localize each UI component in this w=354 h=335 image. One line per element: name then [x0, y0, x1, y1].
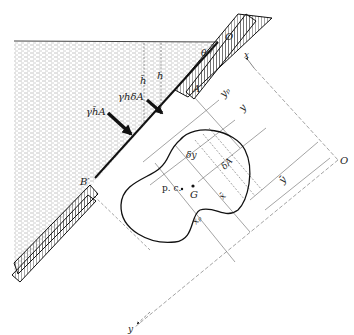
- pressure-centre-point: [181, 188, 183, 190]
- y-label: y: [236, 102, 249, 115]
- origin-right-label: O: [340, 155, 348, 166]
- centroid-point: [191, 184, 194, 187]
- inclined-plane-diagram: h̄ h γhδA γh̄A O θ A′ B′ x yₚ y ȳ O δy δ…: [0, 0, 354, 335]
- centroid-label: G: [190, 189, 198, 200]
- x-bar-label: x̄: [217, 191, 228, 202]
- point-a-label: A′: [192, 83, 203, 94]
- y-bar-label: ȳ: [276, 174, 289, 187]
- theta-label: θ: [201, 48, 207, 58]
- h-bar-label: h̄: [140, 75, 146, 86]
- h-label: h: [157, 70, 163, 81]
- pressure-centre-label: p. c.: [162, 183, 182, 193]
- diagram-canvas: h̄ h γhδA γh̄A O θ A′ B′ x yₚ y ȳ O δy δ…: [0, 0, 354, 335]
- point-b-label: B′: [79, 176, 90, 187]
- origin-top-label: O: [225, 31, 233, 42]
- free-surface: [14, 41, 218, 42]
- y-axis-arrow: [137, 312, 150, 324]
- element-force-label: γhδA: [118, 91, 144, 102]
- y-axis-label: y: [127, 324, 134, 334]
- resultant-force-label: γh̄A: [86, 106, 106, 117]
- y-p-label: yₚ: [217, 85, 232, 100]
- delta-y-label: δy: [186, 150, 197, 160]
- x-axis-arrow: [248, 60, 254, 68]
- plane-area-outline: [121, 130, 250, 242]
- x-axis-label: x: [244, 50, 249, 60]
